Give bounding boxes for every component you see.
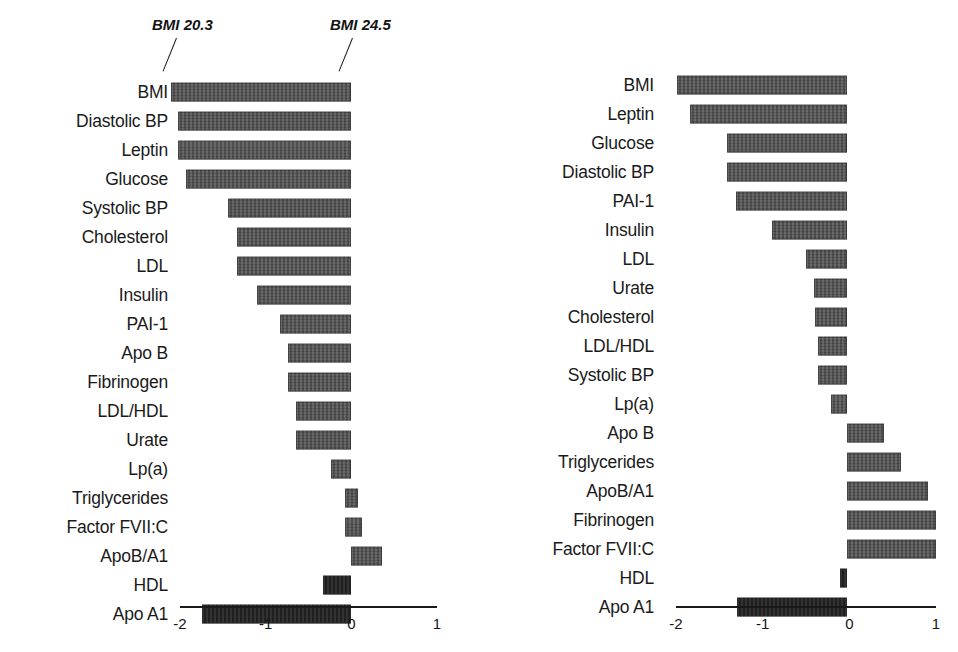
- panel-left-chart: BMI 20.3 BMI 24.5 BMIDiastolic BPLeptinG…: [0, 0, 479, 652]
- bar-row-label: Apo A1: [599, 597, 654, 616]
- bar: [847, 452, 901, 471]
- x-tick-left-2: 0: [331, 615, 371, 632]
- bar-row-label: Fibrinogen: [87, 372, 168, 391]
- bar: [847, 423, 884, 442]
- x-axis-line-right: [676, 606, 936, 608]
- x-tick-left-1: -1: [246, 615, 286, 632]
- bar-row-label: Apo B: [121, 343, 168, 362]
- bar-row: Urate: [0, 425, 479, 454]
- bar: [237, 256, 351, 275]
- bar: [818, 336, 847, 355]
- bar-row: Triglycerides: [479, 447, 958, 476]
- bar-row: LDL: [479, 244, 958, 273]
- bar-row: Factor FVII:C: [479, 534, 958, 563]
- bar: [186, 169, 351, 188]
- bar-row-label: PAI-1: [613, 191, 654, 210]
- x-tick-right-1: -1: [743, 615, 783, 632]
- bar-row-label: Leptin: [608, 104, 654, 123]
- bar-row: Glucose: [479, 128, 958, 157]
- bar: [296, 401, 351, 420]
- leader-line-bmi-24-5: [339, 38, 353, 72]
- bar-row: HDL: [0, 570, 479, 599]
- bar-row: Triglycerides: [0, 483, 479, 512]
- bar-row: PAI-1: [479, 186, 958, 215]
- bar-row-label: Insulin: [605, 220, 654, 239]
- bar: [178, 140, 351, 159]
- bar-row-label: HDL: [134, 575, 168, 594]
- bar-row: Leptin: [479, 99, 958, 128]
- bar-row-label: ApoB/A1: [100, 546, 168, 565]
- bar-row: Systolic BP: [0, 193, 479, 222]
- bar-row-label: HDL: [620, 568, 654, 587]
- bar-row: ApoB/A1: [0, 541, 479, 570]
- bar-row: Lp(a): [479, 389, 958, 418]
- bar: [280, 314, 351, 333]
- bar-row-label: LDL: [136, 256, 168, 275]
- leader-line-bmi-20-3: [163, 38, 177, 72]
- bar: [228, 198, 351, 217]
- bar-row: Insulin: [0, 280, 479, 309]
- bar: [677, 75, 847, 94]
- bar-row-label: Leptin: [122, 140, 168, 159]
- bar-row: Fibrinogen: [479, 505, 958, 534]
- bar: [772, 220, 847, 239]
- bar-row-label: Fibrinogen: [573, 510, 654, 529]
- bar-row: BMI: [0, 77, 479, 106]
- bar-row-label: Lp(a): [128, 459, 168, 478]
- bar-row: LDL/HDL: [0, 396, 479, 425]
- bar-row-label: Glucose: [105, 169, 168, 188]
- bar-row: Glucose: [0, 164, 479, 193]
- bar-row: LDL: [0, 251, 479, 280]
- x-tick-left-3: 1: [417, 615, 457, 632]
- bar: [323, 575, 351, 594]
- x-tick-right-0: -2: [656, 615, 696, 632]
- bar: [727, 162, 847, 181]
- bar: [288, 343, 351, 362]
- bar: [847, 539, 936, 558]
- bar: [727, 133, 847, 152]
- bar-row-label: Insulin: [119, 285, 168, 304]
- bar-row-label: Triglycerides: [558, 452, 654, 471]
- bar-row-label: LDL/HDL: [583, 336, 654, 355]
- bar: [840, 568, 847, 587]
- bar-row: Insulin: [479, 215, 958, 244]
- bar: [178, 111, 351, 130]
- bar-row-label: LDL: [622, 249, 654, 268]
- bar-row: Factor FVII:C: [0, 512, 479, 541]
- panel-right-chart: BMILeptinGlucoseDiastolic BPPAI-1Insulin…: [479, 0, 958, 652]
- bar-row-label: Triglycerides: [72, 488, 168, 507]
- bar: [288, 372, 351, 391]
- bar-row-label: LDL/HDL: [97, 401, 168, 420]
- bar: [806, 249, 847, 268]
- bar-row: Apo A1: [0, 599, 479, 628]
- bar-row-label: PAI-1: [127, 314, 168, 333]
- bar: [331, 459, 351, 478]
- bar-row-label: Urate: [612, 278, 654, 297]
- bar: [815, 307, 847, 326]
- bar-row-label: Urate: [126, 430, 168, 449]
- x-tick-right-2: 0: [829, 615, 869, 632]
- bar: [171, 82, 351, 101]
- x-axis-line-left: [180, 606, 437, 608]
- bar: [351, 546, 382, 565]
- bar-row-label: Systolic BP: [82, 198, 168, 217]
- bar: [847, 510, 936, 529]
- bar-row-label: Apo B: [607, 423, 654, 442]
- bar-row-label: Systolic BP: [568, 365, 654, 384]
- bar-row: PAI-1: [0, 309, 479, 338]
- bar-row-label: Factor FVII:C: [67, 517, 168, 536]
- bar: [690, 104, 847, 123]
- x-tick-left-0: -2: [160, 615, 200, 632]
- bar-row: Urate: [479, 273, 958, 302]
- annotation-bmi-24-5: BMI 24.5: [330, 16, 391, 33]
- bar-row: Fibrinogen: [0, 367, 479, 396]
- bar-row-label: Diastolic BP: [76, 111, 168, 130]
- annotation-bmi-20-3: BMI 20.3: [152, 16, 213, 33]
- bar-row: LDL/HDL: [479, 331, 958, 360]
- bar: [237, 227, 351, 246]
- bar: [257, 285, 351, 304]
- bar-row: Cholesterol: [0, 222, 479, 251]
- bar-row: Diastolic BP: [0, 106, 479, 135]
- bar-row: Apo B: [0, 338, 479, 367]
- bar: [736, 191, 847, 210]
